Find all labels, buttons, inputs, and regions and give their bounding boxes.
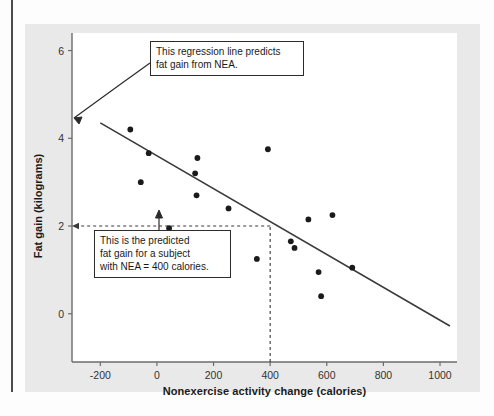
- callout-leader-lines: [74, 63, 163, 230]
- data-point: [330, 212, 336, 218]
- data-point: [195, 155, 201, 161]
- axis-lines: [72, 33, 457, 362]
- prediction-callout-line-1: This is the predicted: [100, 234, 225, 247]
- data-point: [316, 269, 322, 275]
- data-point: [138, 179, 144, 185]
- prediction-callout-box: This is the predicted fat gain for a sub…: [94, 230, 231, 278]
- data-point: [318, 293, 324, 299]
- x-tick-label-1000: 1000: [428, 369, 451, 381]
- x-tick-label-200: 200: [205, 369, 223, 381]
- y-tick-label-6: 6: [50, 45, 64, 57]
- prediction-callout-line-3: with NEA = 400 calories.: [100, 260, 225, 273]
- data-point: [146, 150, 152, 156]
- x-tick-label-0: 0: [154, 369, 160, 381]
- data-point: [254, 256, 260, 262]
- regression-callout-leader: [74, 63, 150, 118]
- data-point: [226, 206, 232, 212]
- regression-callout-line-1: This regression line predicts: [156, 45, 298, 58]
- x-tick-label-400: 400: [261, 369, 279, 381]
- data-point: [265, 146, 271, 152]
- data-point: [194, 192, 200, 198]
- regression-line-path: [100, 123, 450, 326]
- prediction-callout-arrowhead: [156, 210, 163, 218]
- y-tick-label-2: 2: [50, 220, 64, 232]
- x-tick-label-600: 600: [318, 369, 336, 381]
- data-point: [127, 127, 133, 133]
- x-tick-label-800: 800: [375, 369, 393, 381]
- page-background: -20002004006008001000 0246 Nonexercise a…: [0, 0, 494, 416]
- y-tick-label-0: 0: [50, 308, 64, 320]
- y-axis-title: Fat gain (kilograms): [32, 106, 44, 306]
- regression-callout-box: This regression line predicts fat gain f…: [150, 41, 304, 76]
- data-point: [292, 245, 298, 251]
- regression-callout-arrowhead: [74, 117, 82, 124]
- regression-line: [100, 123, 450, 326]
- x-axis-title: Nonexercise activity change (calories): [72, 385, 457, 397]
- regression-callout-line-2: fat gain from NEA.: [156, 58, 298, 71]
- y-tick-label-4: 4: [50, 132, 64, 144]
- data-point: [288, 238, 294, 244]
- x-tick-label--200: -200: [90, 369, 111, 381]
- guide-arrowhead-icon: [72, 223, 79, 229]
- data-point: [349, 265, 355, 271]
- data-point: [305, 217, 311, 223]
- data-point: [192, 170, 198, 176]
- prediction-callout-line-2: fat gain for a subject: [100, 247, 225, 260]
